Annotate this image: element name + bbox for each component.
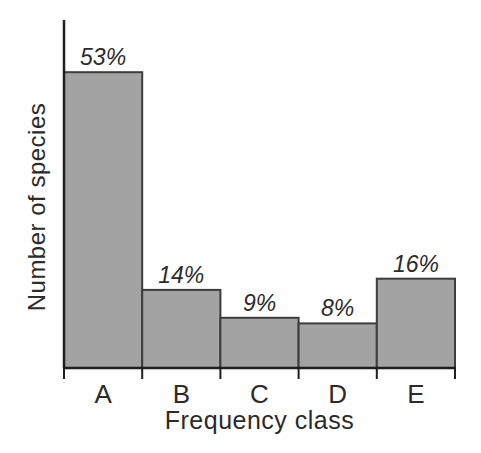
x-tick-label-A: A (94, 379, 112, 409)
x-axis-title: Frequency class (64, 406, 455, 435)
x-tick-label-D: D (328, 379, 347, 409)
x-tick-label-E: E (407, 379, 424, 409)
x-tick-label-B: B (173, 379, 190, 409)
bar-value-label-D: 8% (321, 295, 354, 321)
bar-A (64, 72, 142, 368)
bar-E (377, 279, 455, 368)
x-tick-label-C: C (250, 379, 269, 409)
bar-value-label-A: 53% (80, 44, 126, 70)
bar-value-label-C: 9% (243, 290, 276, 316)
bar-chart-figure: Number of species 53%A14%B9%C8%D16%E Fre… (0, 0, 481, 453)
chart-plot-area: 53%A14%B9%C8%D16%E (0, 0, 481, 453)
bar-C (220, 318, 298, 368)
bar-B (142, 290, 220, 368)
bar-value-label-E: 16% (393, 251, 439, 277)
bar-D (299, 323, 377, 368)
bar-value-label-B: 14% (158, 262, 204, 288)
